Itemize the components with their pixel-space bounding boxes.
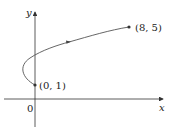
origin-label: 0 <box>27 103 33 114</box>
direction-arrow-icon <box>66 41 71 44</box>
start-point <box>33 83 36 86</box>
y-axis-label: y <box>25 7 32 18</box>
parametric-curve-plot: y x 0 (0, 1) (8, 5) <box>0 0 174 136</box>
end-point-label: (8, 5) <box>135 22 162 33</box>
x-axis-label: x <box>159 102 165 113</box>
start-point-label: (0, 1) <box>39 80 66 91</box>
curve <box>23 27 129 85</box>
end-point <box>127 25 130 28</box>
